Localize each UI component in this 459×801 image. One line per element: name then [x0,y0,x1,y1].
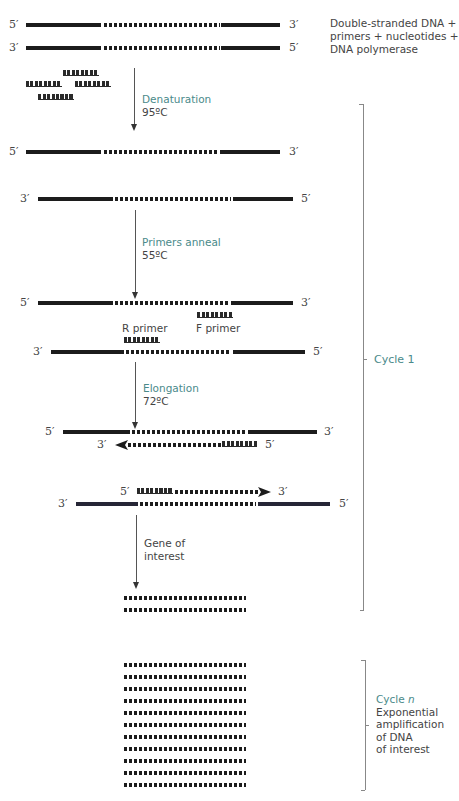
step-temp: 95ºC [142,106,211,119]
product-copy [124,608,246,612]
bracket-point [364,359,367,360]
three-prime-label: 3′ [9,42,19,53]
product-copy [124,675,246,679]
strand-solid [220,150,280,154]
product-copy [124,711,246,715]
five-prime-label: 5′ [339,498,349,509]
product-copy [124,759,246,763]
cyclen-desc-line: of DNA [376,731,444,744]
free-primer [26,81,62,87]
three-prime-label: 3′ [33,346,43,357]
cyclen-n: n [408,693,415,705]
three-prime-label: 3′ [97,439,107,450]
product-copy [124,771,246,775]
five-prime-label: 5′ [45,426,55,437]
strand-solid [26,23,101,27]
step-temp: 55ºC [142,249,221,262]
process-arrow [135,210,136,294]
bracket-end [361,790,365,791]
product-copy [124,699,246,703]
strand-solid [38,197,113,201]
gene-label-line: Gene of [144,537,185,550]
gene-region [104,150,218,154]
cyclen-desc-line: amplification [376,718,444,731]
five-prime-label: 5′ [120,486,130,497]
process-arrow [135,362,136,424]
strand-solid [51,350,124,354]
three-prime-label: 3′ [324,426,334,437]
start-label: Double-stranded DNA + primers + nucleoti… [330,17,459,56]
five-prime-label: 5′ [9,146,19,157]
five-prime-label: 5′ [301,193,311,204]
bracket-point [366,725,369,726]
gene-region [140,502,256,506]
reverse-primer [124,337,160,343]
five-prime-label: 5′ [9,19,19,30]
strand-solid [38,301,113,305]
free-primer [75,81,111,87]
product-copy [124,596,246,600]
five-prime-label: 5′ [313,346,323,357]
bracket-end [360,610,364,611]
bracket-line [363,104,364,610]
start-label-line: primers + nucleotides + [330,30,459,43]
strand-solid [221,46,280,50]
step-name: Primers anneal [142,236,221,249]
three-prime-label: 3′ [58,498,68,509]
forward-primer [197,312,233,318]
arrow-down-icon [133,582,139,589]
strand-solid [248,430,317,434]
start-label-line: Double-stranded DNA + [330,17,459,30]
strand-solid [233,350,305,354]
three-prime-label: 3′ [278,486,288,497]
start-label-line: DNA polymerase [330,43,459,56]
five-prime-label: 5′ [289,42,299,53]
product-copy [124,747,246,751]
process-arrow [134,68,135,126]
three-prime-label: 3′ [289,19,299,30]
product-copy [124,735,246,739]
arrow-down-icon [132,292,138,299]
gene-region [115,301,230,305]
arrow-down-icon [132,422,138,429]
step-elongation: Elongation 72ºC [143,382,199,408]
gene-of-interest-label: Gene of interest [144,537,185,563]
extension-region [175,490,259,494]
strand-solid [76,502,138,506]
strand-solid [258,502,330,506]
arrow-down-icon [131,124,137,131]
step-temp: 72ºC [143,395,199,408]
step-primers-anneal: Primers anneal 55ºC [142,236,221,262]
gene-region [126,350,231,354]
strand-solid [231,301,293,305]
five-prime-label: 5′ [265,439,275,450]
cyclen-desc-line: Exponential [376,706,444,719]
gene-label-line: interest [144,550,185,563]
strand-solid [233,197,293,201]
extension-region [128,443,221,447]
cyclen-title: Cycle [376,693,408,705]
product-copy [124,687,246,691]
three-prime-label: 3′ [20,193,30,204]
r-primer-label: R primer [122,322,168,335]
arrow-right-icon [258,487,272,497]
process-arrow [136,515,137,584]
step-denaturation: Denaturation 95ºC [142,93,211,119]
gene-region [104,23,220,27]
gene-region [115,197,231,201]
reverse-primer [137,488,173,494]
strand-solid [221,23,280,27]
forward-primer [222,441,257,447]
step-name: Elongation [143,382,199,395]
f-primer-label: F primer [196,322,240,335]
strand-solid [63,430,130,434]
step-name: Denaturation [142,93,211,106]
three-prime-label: 3′ [301,297,311,308]
cyclen-desc-line: of interest [376,743,444,756]
strand-solid [26,46,101,50]
arrow-left-icon [115,440,129,450]
three-prime-label: 3′ [289,146,299,157]
five-prime-label: 5′ [20,297,30,308]
strand-solid [26,150,101,154]
